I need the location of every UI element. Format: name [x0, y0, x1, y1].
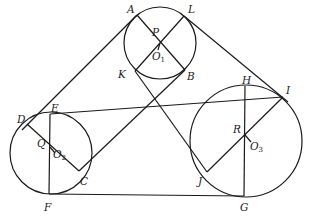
point-label-e: E: [50, 102, 59, 114]
point-label-k: K: [117, 68, 127, 80]
point-label-i: I: [285, 84, 291, 96]
point-label-l: L: [187, 3, 195, 15]
center-label-o2: O2: [53, 148, 66, 162]
point-label-a: A: [126, 3, 135, 15]
segments-group: [22, 15, 288, 196]
circle-o3: [190, 85, 302, 197]
point-label-p: P: [151, 26, 160, 38]
point-label-q: Q: [37, 137, 46, 150]
tangent-F-G: [49, 194, 244, 196]
point-label-j: J: [196, 175, 203, 187]
point-label-c: C: [80, 175, 88, 187]
line-K-J: [135, 71, 207, 172]
labels-group: O1O2O3ALPKBDEQFCHIRJG: [16, 3, 291, 213]
point-label-h: H: [241, 74, 252, 86]
center-label-o3: O3: [250, 140, 263, 154]
point-label-f: F: [43, 201, 52, 213]
point-label-r: R: [232, 123, 241, 135]
tangent-E-H: [50, 97, 283, 114]
point-label-g: G: [240, 201, 248, 213]
tangent-L-I: [184, 16, 288, 102]
center-label-o1: O1: [152, 50, 165, 64]
point-label-d: D: [16, 113, 26, 125]
diagram-svg: O1O2O3ALPKBDEQFCHIRJG: [0, 0, 314, 219]
chord-H-G: [244, 86, 245, 196]
geometry-diagram: O1O2O3ALPKBDEQFCHIRJG: [0, 0, 314, 219]
chord-E-F: [49, 114, 50, 194]
point-label-b: B: [186, 70, 195, 82]
line-B-C: [79, 70, 185, 171]
